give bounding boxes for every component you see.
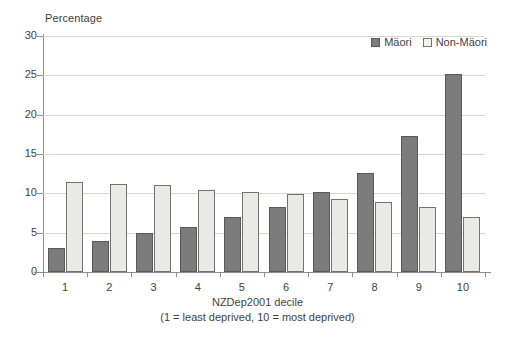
bar-maori-decile-3 xyxy=(136,233,153,272)
bar-maori-decile-7 xyxy=(313,192,330,272)
x-tick-mark xyxy=(220,272,221,277)
bar-maori-decile-9 xyxy=(401,136,418,272)
bar-maori-decile-6 xyxy=(269,207,286,272)
x-tick-mark xyxy=(352,272,353,277)
bar-non-maori-decile-6 xyxy=(287,194,304,272)
bar-non-maori-decile-8 xyxy=(375,202,392,272)
y-tick-label: 30 xyxy=(13,29,37,41)
x-tick-label-5: 5 xyxy=(239,281,245,293)
x-tick-mark xyxy=(264,272,265,277)
x-tick-mark xyxy=(87,272,88,277)
legend-item-non-maori[interactable]: Non-Mäori xyxy=(423,36,487,48)
bar-maori-decile-5 xyxy=(224,217,241,272)
bar-non-maori-decile-2 xyxy=(110,184,127,272)
x-axis-line xyxy=(34,272,491,273)
legend-label-non-maori: Non-Mäori xyxy=(436,36,487,48)
y-tick-label: 20 xyxy=(13,108,37,120)
legend-label-maori: Mäori xyxy=(384,36,412,48)
x-tick-mark xyxy=(397,272,398,277)
legend-swatch-non-maori-icon xyxy=(423,38,432,47)
plot-bars xyxy=(43,36,485,272)
x-tick-mark xyxy=(308,272,309,277)
y-tick-label: 5 xyxy=(13,226,37,238)
bar-non-maori-decile-4 xyxy=(198,190,215,272)
legend-swatch-maori-icon xyxy=(371,38,380,47)
bar-non-maori-decile-5 xyxy=(242,192,259,272)
y-tick-label: 15 xyxy=(13,147,37,159)
x-tick-label-9: 9 xyxy=(416,281,422,293)
y-tick-label: 0 xyxy=(13,265,37,277)
y-axis-ticks: 051015202530 xyxy=(0,36,37,272)
bar-non-maori-decile-10 xyxy=(463,217,480,272)
x-tick-mark xyxy=(176,272,177,277)
x-tick-label-10: 10 xyxy=(457,281,469,293)
bar-maori-decile-4 xyxy=(180,227,197,272)
bar-maori-decile-2 xyxy=(92,241,109,272)
bar-maori-decile-10 xyxy=(445,74,462,272)
bar-maori-decile-1 xyxy=(48,248,65,272)
bar-non-maori-decile-9 xyxy=(419,207,436,272)
legend: Mäori Non-Mäori xyxy=(371,36,487,48)
bar-non-maori-decile-1 xyxy=(66,182,83,272)
x-tick-mark xyxy=(485,272,486,277)
y-axis-title: Percentage xyxy=(45,12,102,24)
x-tick-mark xyxy=(43,272,44,277)
legend-item-maori[interactable]: Mäori xyxy=(371,36,412,48)
x-tick-label-3: 3 xyxy=(150,281,156,293)
y-tick-label: 10 xyxy=(13,186,37,198)
x-tick-label-2: 2 xyxy=(106,281,112,293)
bar-non-maori-decile-3 xyxy=(154,185,171,272)
x-tick-mark xyxy=(131,272,132,277)
x-tick-label-6: 6 xyxy=(283,281,289,293)
bar-maori-decile-8 xyxy=(357,173,374,272)
y-tick-label: 25 xyxy=(13,68,37,80)
bar-non-maori-decile-7 xyxy=(331,199,348,272)
x-tick-label-1: 1 xyxy=(62,281,68,293)
x-axis-subtitle: (1 = least deprived, 10 = most deprived) xyxy=(0,311,515,323)
x-tick-label-4: 4 xyxy=(195,281,201,293)
x-axis-title: NZDep2001 decile xyxy=(0,296,515,308)
x-tick-label-8: 8 xyxy=(371,281,377,293)
x-tick-mark xyxy=(441,272,442,277)
x-tick-label-7: 7 xyxy=(327,281,333,293)
bar-chart: Percentage 051015202530 12345678910 NZDe… xyxy=(0,0,515,340)
